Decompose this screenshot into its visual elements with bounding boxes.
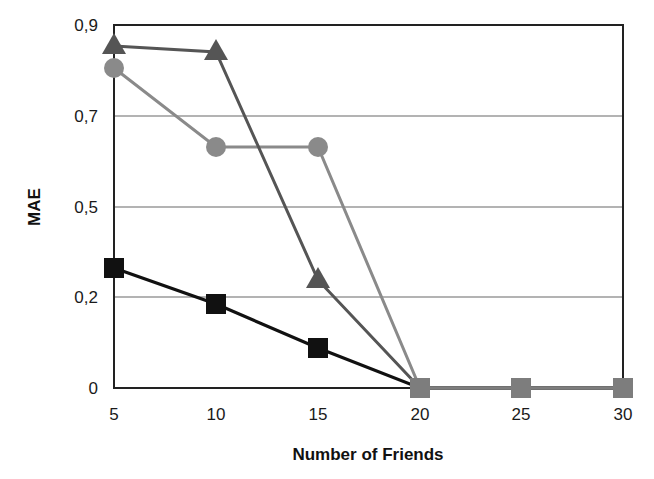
- overlapping-marker: [511, 378, 531, 398]
- circle-series: [104, 58, 633, 398]
- square-marker: [308, 338, 328, 358]
- y-axis-title: MAE: [25, 188, 44, 226]
- y-tick-label: 0,9: [74, 16, 98, 35]
- y-tick-label: 0,2: [74, 288, 98, 307]
- y-tick-label: 0: [89, 379, 98, 398]
- series-line: [114, 268, 623, 388]
- square-series: [104, 258, 633, 398]
- x-tick-label: 25: [512, 405, 531, 424]
- series-layer: [102, 33, 633, 398]
- circle-marker: [206, 137, 226, 157]
- x-axis-ticks: 51015202530: [109, 405, 632, 424]
- x-axis-title: Number of Friends: [292, 445, 443, 464]
- triangle-marker: [204, 39, 228, 60]
- circle-marker: [104, 58, 124, 78]
- y-tick-label: 0,5: [74, 198, 98, 217]
- zero-value-markers: [410, 378, 633, 398]
- square-marker: [104, 258, 124, 278]
- overlapping-marker: [613, 378, 633, 398]
- circle-marker: [308, 137, 328, 157]
- x-tick-label: 10: [207, 405, 226, 424]
- triangle-series: [102, 33, 623, 388]
- x-tick-label: 30: [614, 405, 633, 424]
- y-axis-ticks: 00,20,50,70,9: [74, 16, 98, 398]
- mae-line-chart: 00,20,50,70,9 51015202530 Number of Frie…: [0, 0, 654, 479]
- y-tick-label: 0,7: [74, 107, 98, 126]
- triangle-marker: [102, 33, 126, 54]
- square-marker: [206, 294, 226, 314]
- series-line: [114, 46, 623, 388]
- overlapping-marker: [410, 378, 430, 398]
- x-tick-label: 15: [309, 405, 328, 424]
- x-tick-label: 5: [109, 405, 118, 424]
- x-tick-label: 20: [411, 405, 430, 424]
- triangle-marker: [306, 267, 330, 288]
